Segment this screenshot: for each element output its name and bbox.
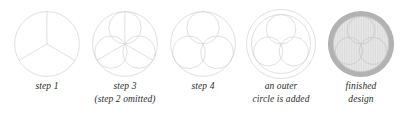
radius-lower-left — [19, 44, 47, 61]
step-3-artwork — [89, 8, 161, 80]
spiral-lobe-1 — [173, 36, 203, 61]
figure-finished-design: finished design — [320, 0, 402, 118]
spiral-arm-2 — [175, 44, 205, 69]
spiral-arm-3 — [281, 37, 308, 59]
radius-lower-left — [97, 44, 125, 61]
caption-line-2: (step 2 omitted) — [74, 93, 176, 106]
spiral-arm-3 — [203, 36, 233, 61]
spiral-lobe-2 — [279, 44, 306, 66]
caption-line-1: an outer — [265, 81, 298, 91]
spiral-arm-1 — [266, 14, 281, 44]
step-4-artwork — [167, 8, 239, 80]
spiral-lobe-3 — [281, 14, 296, 44]
caption-line-1: step 4 — [191, 81, 214, 91]
caption-line-1: step 3 — [113, 81, 136, 91]
illustration-canvas: step 1 step 3 (step 2 omitted) — [0, 0, 412, 118]
spiral-arm-2 — [255, 44, 282, 66]
spiral-lobe-3 — [203, 12, 219, 44]
spiral-lobe-2 — [201, 44, 231, 69]
figure-step-3: step 3 (step 2 omitted) — [84, 0, 166, 118]
caption-line-1: step 1 — [35, 81, 58, 91]
finished-design-artwork — [325, 8, 397, 80]
step-1-artwork — [11, 8, 83, 80]
caption-finished-design: finished design — [310, 80, 412, 105]
caption-line-2: design — [310, 93, 412, 106]
spiral-lobe-1 — [254, 37, 281, 59]
radius-lower-right — [125, 44, 153, 61]
spiral-arm-1 — [187, 12, 203, 44]
radius-lower-right — [47, 44, 75, 61]
caption-line-1: finished — [346, 81, 377, 91]
outer-circle-artwork — [245, 8, 317, 80]
